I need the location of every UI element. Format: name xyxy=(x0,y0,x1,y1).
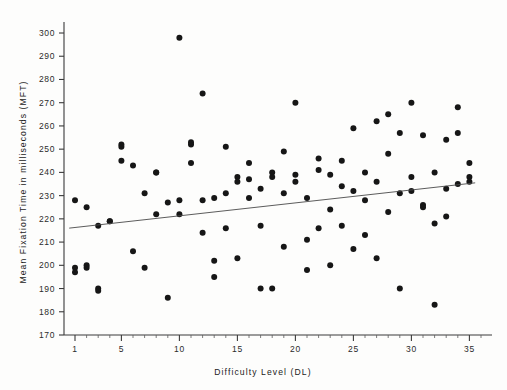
data-point xyxy=(362,197,368,203)
data-point xyxy=(304,195,310,201)
data-point xyxy=(211,274,217,280)
data-point xyxy=(188,139,194,145)
data-point xyxy=(269,286,275,292)
data-point xyxy=(118,142,124,148)
data-point xyxy=(153,169,159,175)
data-point xyxy=(385,151,391,157)
y-axis-title: Mean Fixation Time in milliseconds (MFT) xyxy=(18,80,28,283)
data-point xyxy=(246,176,252,182)
data-point xyxy=(234,179,240,185)
data-point xyxy=(339,223,345,229)
data-point xyxy=(165,200,171,206)
data-point xyxy=(327,262,333,268)
x-tick-label: 10 xyxy=(174,344,185,354)
data-point xyxy=(176,35,182,41)
data-point xyxy=(84,204,90,210)
data-point xyxy=(292,100,298,106)
y-tick-label: 290 xyxy=(39,51,55,61)
data-point xyxy=(374,118,380,124)
data-point xyxy=(176,197,182,203)
scatter-plot-svg: 1701801902002102202302402502602702802903… xyxy=(0,0,507,390)
y-axis-ticks: 1701801902002102202302402502602702802903… xyxy=(39,28,64,340)
data-point xyxy=(304,267,310,273)
data-point xyxy=(200,90,206,96)
data-point xyxy=(246,195,252,201)
data-point xyxy=(420,204,426,210)
y-tick-label: 250 xyxy=(39,144,55,154)
data-point xyxy=(246,160,252,166)
data-point xyxy=(443,137,449,143)
data-point xyxy=(350,125,356,131)
data-point xyxy=(408,174,414,180)
data-point xyxy=(327,207,333,213)
data-point xyxy=(408,100,414,106)
data-point xyxy=(339,158,345,164)
chart-figure: 1701801902002102202302402502602702802903… xyxy=(0,0,507,390)
data-point xyxy=(142,265,148,271)
data-point xyxy=(130,162,136,168)
data-point xyxy=(397,130,403,136)
data-point xyxy=(432,302,438,308)
data-point xyxy=(455,104,461,110)
data-point xyxy=(130,248,136,254)
data-point xyxy=(339,183,345,189)
data-point xyxy=(258,286,264,292)
data-point xyxy=(374,255,380,261)
data-point xyxy=(95,223,101,229)
y-tick-label: 270 xyxy=(39,98,55,108)
data-point xyxy=(188,160,194,166)
data-point xyxy=(281,244,287,250)
data-point xyxy=(432,169,438,175)
x-tick-label: 15 xyxy=(232,344,243,354)
y-tick-label: 210 xyxy=(39,237,55,247)
data-point xyxy=(84,262,90,268)
data-point xyxy=(281,148,287,154)
data-point xyxy=(118,158,124,164)
data-point xyxy=(142,190,148,196)
data-point xyxy=(200,197,206,203)
x-tick-label: 25 xyxy=(348,344,359,354)
data-point xyxy=(234,255,240,261)
data-point xyxy=(211,258,217,264)
y-tick-label: 240 xyxy=(39,167,55,177)
data-point xyxy=(443,214,449,220)
x-axis-title: Difficulty Level (DL) xyxy=(214,367,311,377)
data-point xyxy=(153,211,159,217)
data-point xyxy=(223,190,229,196)
data-point xyxy=(385,209,391,215)
x-tick-label: 35 xyxy=(464,344,475,354)
data-point xyxy=(292,172,298,178)
data-point xyxy=(327,172,333,178)
regression-line xyxy=(69,183,475,228)
data-point xyxy=(292,179,298,185)
x-tick-label: 20 xyxy=(290,344,301,354)
data-point xyxy=(258,186,264,192)
y-tick-label: 230 xyxy=(39,191,55,201)
x-tick-label: 5 xyxy=(119,344,124,354)
data-point xyxy=(316,155,322,161)
y-tick-label: 200 xyxy=(39,260,55,270)
data-point xyxy=(223,225,229,231)
data-point xyxy=(269,174,275,180)
data-point xyxy=(432,221,438,227)
data-point xyxy=(200,230,206,236)
data-point xyxy=(316,167,322,173)
y-tick-label: 190 xyxy=(39,284,55,294)
data-point xyxy=(374,179,380,185)
data-point xyxy=(350,188,356,194)
regression-line-group xyxy=(69,183,475,228)
data-points-group xyxy=(72,35,472,308)
data-point xyxy=(258,223,264,229)
data-point xyxy=(385,111,391,117)
y-tick-label: 220 xyxy=(39,214,55,224)
axes-group xyxy=(64,22,492,335)
data-point xyxy=(316,225,322,231)
data-point xyxy=(350,246,356,252)
y-tick-label: 300 xyxy=(39,28,55,38)
data-point xyxy=(408,188,414,194)
y-tick-label: 180 xyxy=(39,307,55,317)
y-tick-label: 260 xyxy=(39,121,55,131)
y-tick-label: 170 xyxy=(39,330,55,340)
data-point xyxy=(72,197,78,203)
data-point xyxy=(420,132,426,138)
